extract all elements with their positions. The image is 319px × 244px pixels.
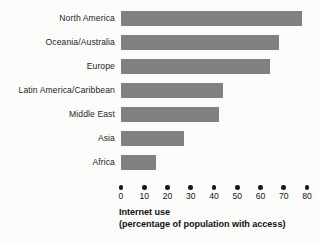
axis-tick-dot (258, 185, 263, 190)
bar-row: Europe (0, 59, 319, 74)
bar (121, 59, 270, 74)
axis-tick-label: 20 (163, 190, 173, 202)
axis-tick-dot (281, 185, 286, 190)
bar-track (121, 11, 302, 26)
axis-tick-label: 10 (139, 190, 149, 202)
axis-tick-dot (188, 185, 193, 190)
category-label: Europe (0, 59, 115, 74)
bar (121, 83, 223, 98)
axis-tick-label: 30 (186, 190, 196, 202)
bar-row: Africa (0, 155, 319, 170)
bar-track (121, 131, 184, 146)
axis-tick-dot (212, 185, 217, 190)
axis-tick-label: 80 (302, 190, 312, 202)
bar-track (121, 155, 156, 170)
bar-row: Middle East (0, 107, 319, 122)
caption-line-1: Internet use (119, 207, 319, 219)
axis-tick-label: 50 (232, 190, 242, 202)
category-label: North America (0, 11, 115, 26)
internet-use-bar-chart: North AmericaOceania/AustraliaEuropeLati… (0, 0, 319, 244)
category-label: Middle East (0, 107, 115, 122)
bar (121, 11, 302, 26)
bar (121, 35, 279, 50)
bar-track (121, 107, 219, 122)
bar-row: Oceania/Australia (0, 35, 319, 50)
axis-tick-label: 0 (119, 190, 124, 202)
bar-track (121, 35, 279, 50)
bar-row: Asia (0, 131, 319, 146)
x-axis-tick-labels: 01020304050607080 (121, 190, 311, 202)
bar-track (121, 83, 223, 98)
axis-tick-label: 40 (209, 190, 219, 202)
axis-tick-dot (165, 185, 170, 190)
axis-tick-dot (305, 185, 310, 190)
axis-tick-label: 70 (279, 190, 289, 202)
axis-tick-dot (119, 185, 124, 190)
x-axis-ticks (121, 179, 307, 189)
chart-plot-area: North AmericaOceania/AustraliaEuropeLati… (0, 11, 319, 179)
x-axis-caption: Internet use (percentage of population w… (119, 207, 319, 230)
category-label: Oceania/Australia (0, 35, 115, 50)
category-label: Asia (0, 131, 115, 146)
bar (121, 155, 156, 170)
axis-tick-dot (235, 185, 240, 190)
axis-tick-label: 60 (256, 190, 266, 202)
bar-track (121, 59, 270, 74)
axis-tick-dot (142, 185, 147, 190)
caption-line-2: (percentage of population with access) (119, 219, 319, 231)
bar-row: North America (0, 11, 319, 26)
category-label: Latin America/Caribbean (0, 83, 115, 98)
category-label: Africa (0, 155, 115, 170)
bar (121, 131, 184, 146)
bar (121, 107, 219, 122)
bar-row: Latin America/Caribbean (0, 83, 319, 98)
